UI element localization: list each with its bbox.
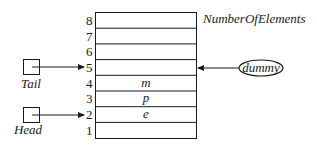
- dummy-label: dummy: [242, 60, 280, 75]
- tail-label: Tail: [21, 76, 41, 91]
- index-4: 4: [86, 76, 93, 91]
- index-2: 2: [86, 107, 93, 122]
- dummy-pointer: dummy: [198, 60, 283, 76]
- index-8: 8: [86, 13, 93, 28]
- cell-values: m p e: [141, 75, 150, 121]
- index-1: 1: [86, 123, 93, 138]
- head-label: Head: [13, 122, 43, 137]
- cell-value-2: e: [143, 106, 149, 121]
- tail-pointer: Tail: [21, 60, 84, 92]
- cell-value-3: p: [142, 90, 150, 105]
- index-6: 6: [86, 44, 93, 59]
- head-pointer: Head: [13, 108, 84, 138]
- index-5: 5: [86, 60, 93, 75]
- index-3: 3: [86, 91, 93, 106]
- index-labels: 8 7 6 5 4 3 2 1: [86, 13, 93, 138]
- number-of-elements-label: NumberOfElements: [202, 11, 306, 26]
- queue-array-diagram: 8 7 6 5 4 3 2 1 m p e NumberOfElements T…: [0, 0, 317, 149]
- cell-value-4: m: [141, 75, 150, 90]
- index-7: 7: [86, 29, 93, 44]
